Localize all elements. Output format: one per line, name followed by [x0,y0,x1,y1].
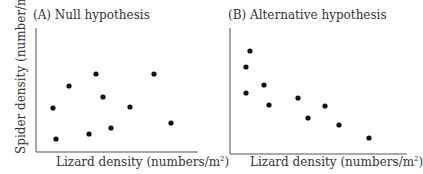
data-point [168,120,173,125]
data-point [151,71,156,76]
data-point [100,94,105,99]
data-point [261,82,266,87]
panel-b-plot [230,28,407,154]
data-point [266,102,271,107]
data-point [66,83,71,88]
data-point [86,131,91,136]
data-point [336,122,341,127]
data-point [305,115,310,120]
data-point [322,103,327,108]
data-point [366,135,371,140]
data-point [108,125,113,130]
data-point [247,48,252,53]
data-point [295,95,300,100]
panel-a-plot [36,28,198,152]
data-point [127,104,132,109]
data-point [243,90,248,95]
data-point [243,64,248,69]
data-point [53,136,58,141]
data-point [93,71,98,76]
data-point [50,105,55,110]
